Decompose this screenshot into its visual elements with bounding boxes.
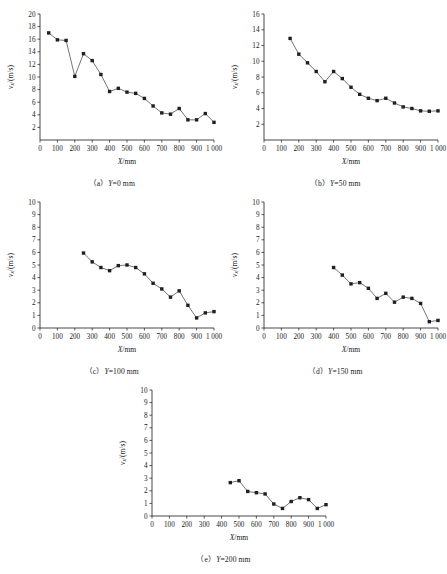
x-tick-label: 300 bbox=[311, 333, 322, 341]
data-point bbox=[204, 112, 207, 115]
y-tick-label: 16 bbox=[252, 11, 260, 19]
data-point bbox=[160, 287, 163, 290]
data-point bbox=[272, 502, 275, 505]
data-point bbox=[213, 121, 216, 124]
chart-panel-e: 0123456789100100200300400500600700800900… bbox=[112, 376, 336, 564]
data-point bbox=[316, 507, 319, 510]
chart-caption-d: （d）Y=150 mm bbox=[308, 365, 363, 376]
series-line bbox=[290, 38, 438, 111]
data-point bbox=[427, 110, 430, 113]
x-tick-label: 900 bbox=[415, 145, 426, 153]
data-point bbox=[99, 73, 102, 76]
caption-label-c: （c） bbox=[85, 367, 105, 376]
data-point bbox=[178, 289, 181, 292]
chart-svg-c: 0123456789100100200300400500600700800900… bbox=[0, 188, 223, 366]
data-point bbox=[349, 282, 352, 285]
data-point bbox=[143, 272, 146, 275]
y-axis-title: vx/(m/s) bbox=[6, 253, 15, 277]
data-point bbox=[91, 260, 94, 263]
data-point bbox=[375, 297, 378, 300]
chart-row-3: 0123456789100100200300400500600700800900… bbox=[0, 376, 447, 564]
data-point bbox=[195, 118, 198, 121]
y-tick-label: 4 bbox=[256, 274, 260, 282]
x-tick-label: 800 bbox=[174, 145, 185, 153]
x-tick-label: 1 000 bbox=[206, 145, 223, 153]
y-tick-label: 8 bbox=[32, 224, 36, 232]
x-tick-label: 600 bbox=[139, 145, 150, 153]
y-tick-label: 7 bbox=[144, 424, 148, 432]
caption-label-d: （d） bbox=[308, 367, 328, 376]
y-tick-label: 10 bbox=[252, 199, 260, 207]
caption-label-e: （e） bbox=[196, 555, 216, 564]
data-point bbox=[108, 269, 111, 272]
y-tick-label: 14 bbox=[252, 26, 260, 34]
x-tick-label: 300 bbox=[199, 521, 210, 529]
x-axis-ticks: 01002003004005006007008009001 000 bbox=[150, 516, 334, 529]
x-tick-label: 600 bbox=[363, 333, 374, 341]
axes bbox=[264, 202, 438, 328]
data-point bbox=[186, 118, 189, 121]
x-tick-label: 700 bbox=[380, 333, 391, 341]
x-tick-label: 900 bbox=[191, 333, 202, 341]
data-point bbox=[401, 295, 404, 298]
data-point bbox=[410, 107, 413, 110]
y-tick-label: 10 bbox=[29, 74, 37, 82]
data-point bbox=[281, 507, 284, 510]
x-tick-label: 800 bbox=[398, 333, 409, 341]
caption-value-c: =100 mm bbox=[109, 367, 139, 376]
y-axis-ticks: 012345678910 bbox=[29, 199, 41, 333]
data-point bbox=[56, 38, 59, 41]
y-tick-label: 4 bbox=[144, 462, 148, 470]
data-point bbox=[117, 264, 120, 267]
data-point bbox=[307, 498, 310, 501]
y-tick-label: 1 bbox=[256, 312, 260, 320]
data-point bbox=[298, 496, 301, 499]
y-axis-ticks: 246810121416 bbox=[252, 11, 264, 129]
chart-caption-e: （e）Y=200 mm bbox=[196, 553, 250, 564]
x-tick-label: 0 bbox=[150, 521, 154, 529]
x-tick-label: 500 bbox=[122, 145, 133, 153]
series-line bbox=[84, 253, 215, 318]
y-tick-label: 3 bbox=[256, 287, 260, 295]
x-axis-title: X/mm bbox=[117, 157, 137, 166]
y-tick-label: 2 bbox=[256, 299, 260, 307]
y-tick-label: 16 bbox=[29, 36, 37, 44]
y-tick-label: 9 bbox=[32, 211, 36, 219]
data-point bbox=[134, 266, 137, 269]
data-point bbox=[255, 491, 258, 494]
x-tick-label: 600 bbox=[139, 333, 150, 341]
y-tick-label: 8 bbox=[256, 74, 260, 82]
x-tick-label: 400 bbox=[328, 145, 339, 153]
x-tick-label: 800 bbox=[286, 521, 297, 529]
y-tick-label: 6 bbox=[144, 437, 148, 445]
x-tick-label: 100 bbox=[164, 521, 175, 529]
y-tick-label: 0 bbox=[256, 325, 260, 333]
x-tick-label: 600 bbox=[251, 521, 262, 529]
series-line bbox=[230, 481, 326, 509]
x-tick-label: 400 bbox=[104, 145, 115, 153]
data-point bbox=[152, 282, 155, 285]
chart-caption-c: （c）Y=100 mm bbox=[85, 365, 139, 376]
y-tick-label: 6 bbox=[256, 249, 260, 257]
x-tick-label: 100 bbox=[276, 145, 287, 153]
data-point bbox=[323, 80, 326, 83]
data-point bbox=[366, 287, 369, 290]
data-point bbox=[108, 90, 111, 93]
data-point bbox=[204, 311, 207, 314]
data-point bbox=[366, 97, 369, 100]
data-point bbox=[384, 97, 387, 100]
data-point bbox=[134, 92, 137, 95]
chart-svg-a: 2468101214161820010020030040050060070080… bbox=[0, 0, 223, 178]
data-point bbox=[91, 59, 94, 62]
x-axis-ticks: 01002003004005006007008009001 000 bbox=[262, 140, 446, 153]
y-axis-title: vx/(m/s) bbox=[6, 65, 15, 89]
y-axis-ticks: 2468101214161820 bbox=[29, 11, 41, 132]
x-tick-label: 0 bbox=[262, 145, 266, 153]
chart-panel-d: 0123456789100100200300400500600700800900… bbox=[224, 188, 447, 376]
data-point bbox=[419, 302, 422, 305]
x-tick-label: 200 bbox=[293, 333, 304, 341]
y-tick-label: 6 bbox=[32, 249, 36, 257]
y-tick-label: 9 bbox=[144, 399, 148, 407]
data-point bbox=[314, 70, 317, 73]
y-axis-ticks: 012345678910 bbox=[252, 199, 264, 333]
